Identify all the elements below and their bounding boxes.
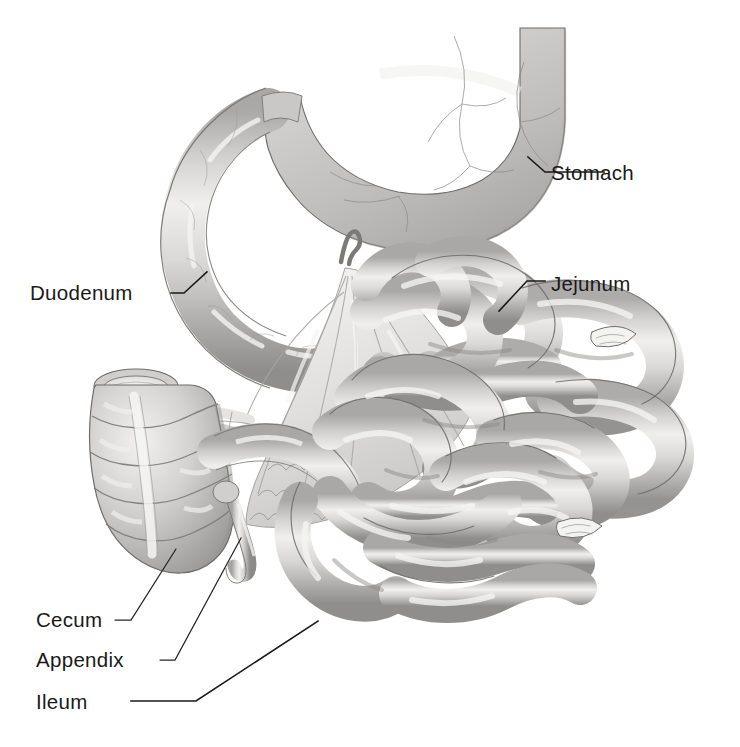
pylorus xyxy=(262,92,302,122)
label-stomach: Stomach xyxy=(551,161,634,184)
stomach-structure xyxy=(265,28,565,251)
label-cecum: Cecum xyxy=(36,608,102,631)
label-ileum: Ileum xyxy=(36,690,88,713)
mesenteric-root-stalk xyxy=(341,231,360,264)
anatomy-figure: Stomach Duodenum Jejunum Cecum Appendix … xyxy=(0,0,740,747)
label-duodenum: Duodenum xyxy=(30,281,133,304)
leader-ileum xyxy=(131,621,318,701)
appendix-base xyxy=(213,481,239,503)
stomach-body xyxy=(265,28,565,251)
stomach-highlight xyxy=(380,71,520,92)
label-jejunum: Jejunum xyxy=(551,272,631,295)
label-appendix: Appendix xyxy=(36,648,124,671)
anatomy-illustration: Stomach Duodenum Jejunum Cecum Appendix … xyxy=(0,0,740,747)
